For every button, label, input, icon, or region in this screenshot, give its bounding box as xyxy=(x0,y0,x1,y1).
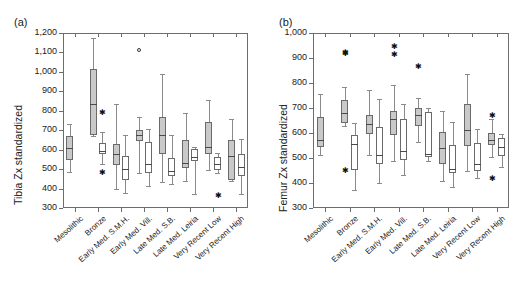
x-tick-mark xyxy=(75,208,76,212)
x-tick-mark-top xyxy=(423,33,424,37)
whisker-cap-box-b-filled-4-low xyxy=(416,142,421,143)
whisker-cap-box-a-filled-5-low xyxy=(183,181,188,182)
whisker-cap-box-a-filled-3-high xyxy=(137,117,142,118)
outlier-star-box-b-filled-7-1: ✱ xyxy=(489,176,496,182)
whisker-cap-box-a-filled-7-low xyxy=(229,181,234,182)
y-tick-label: 900 xyxy=(19,85,57,95)
median-box-b-filled-4 xyxy=(415,115,422,116)
x-tick-mark xyxy=(399,208,400,212)
y-tick-label: 800 xyxy=(19,105,57,115)
whisker-cap-box-b-filled-1-high xyxy=(342,87,347,88)
whisker-cap-box-a-open-3-low xyxy=(146,186,151,187)
whisker-cap-box-b-filled-5-low xyxy=(440,181,445,182)
y-tick-label: 300 xyxy=(19,202,57,212)
outlier-star-box-a-open-6-0: ✱ xyxy=(215,193,222,199)
y-tick-mark xyxy=(309,208,313,209)
whisker-cap-box-a-open-5-low xyxy=(192,194,197,195)
y-tick-label: 500 xyxy=(269,152,307,162)
x-tick-mark-top xyxy=(399,33,400,37)
whisker-cap-box-b-open-3-low xyxy=(401,175,406,176)
y-tick-label: 400 xyxy=(269,177,307,187)
whisker-cap-box-b-filled-1-low xyxy=(342,126,347,127)
whisker-cap-box-b-open-3-high xyxy=(401,104,406,105)
whisker-cap-box-a-open-7-high xyxy=(239,139,244,140)
whisker-cap-box-a-filled-6-high xyxy=(206,100,211,101)
median-box-b-open-1 xyxy=(351,144,358,145)
y-tick-label: 600 xyxy=(269,127,307,137)
whisker-cap-box-b-filled-2-high xyxy=(367,90,372,91)
whisker-cap-box-a-filled-0-low xyxy=(67,172,72,173)
whisker-cap-box-b-filled-3-low xyxy=(391,161,396,162)
box-a-filled-7 xyxy=(228,140,235,180)
box-b-filled-4 xyxy=(415,108,422,126)
whisker-cap-box-a-open-2-low xyxy=(123,193,128,194)
whisker-cap-box-b-filled-3-high xyxy=(391,85,396,86)
whisker-cap-box-a-filled-2-low xyxy=(114,189,119,190)
y-tick-label: 800 xyxy=(269,77,307,87)
x-tick-mark-top xyxy=(325,33,326,37)
whisker-cap-box-b-filled-4-high xyxy=(416,98,421,99)
whisker-cap-box-a-filled-0-high xyxy=(67,124,72,125)
whisker-cap-box-a-filled-4-high xyxy=(160,74,165,75)
y-tick-label: 300 xyxy=(269,202,307,212)
x-tick-mark-top xyxy=(374,33,375,37)
median-box-b-open-3 xyxy=(400,151,407,152)
whisker-cap-box-b-filled-0-high xyxy=(318,94,323,95)
median-box-a-open-4 xyxy=(168,171,175,172)
y-tick-mark xyxy=(59,72,63,73)
box-b-filled-0 xyxy=(317,117,324,147)
median-box-b-filled-5 xyxy=(439,148,446,149)
whisker-cap-box-b-open-6-high xyxy=(475,129,480,130)
x-tick-mark-top xyxy=(98,33,99,37)
x-tick-mark xyxy=(448,208,449,212)
box-a-open-1 xyxy=(99,143,106,154)
median-box-a-filled-5 xyxy=(182,163,189,164)
box-b-filled-1 xyxy=(341,100,348,123)
outlier-star-box-b-filled-1-2: ✱ xyxy=(342,168,349,174)
whisker-cap-box-b-open-1-low xyxy=(352,190,357,191)
whisker-cap-box-a-filled-5-high xyxy=(183,113,188,114)
median-box-b-open-4 xyxy=(425,154,432,155)
whisker-cap-box-b-open-7-low xyxy=(499,167,504,168)
y-tick-label: 500 xyxy=(19,163,57,173)
whisker-cap-box-b-filled-7-low xyxy=(489,157,494,158)
y-tick-label: 1,000 xyxy=(19,66,57,76)
whisker-cap-box-b-filled-6-high xyxy=(465,74,470,75)
y-tick-mark xyxy=(59,150,63,151)
box-b-open-2 xyxy=(376,127,383,164)
y-tick-label: 1,000 xyxy=(269,27,307,37)
whisker-cap-box-a-open-1-high xyxy=(100,132,105,133)
x-tick-mark-top xyxy=(144,33,145,37)
x-tick-mark-top xyxy=(236,33,237,37)
y-tick-mark xyxy=(309,108,313,109)
median-box-b-filled-7 xyxy=(488,140,495,141)
x-tick-mark xyxy=(190,208,191,212)
median-box-a-filled-7 xyxy=(228,156,235,157)
x-tick-mark xyxy=(213,208,214,212)
median-box-b-open-7 xyxy=(498,147,505,148)
whisker-cap-box-a-filled-1-low xyxy=(91,136,96,137)
median-box-a-filled-4 xyxy=(159,135,166,136)
whisker-cap-box-b-filled-0-low xyxy=(318,155,323,156)
y-tick-mark xyxy=(309,183,313,184)
whisker-cap-box-a-filled-2-high xyxy=(114,104,119,105)
box-a-open-5 xyxy=(191,149,198,160)
whisker-cap-box-a-open-5-high xyxy=(192,147,197,148)
x-tick-mark-top xyxy=(448,33,449,37)
median-box-b-filled-3 xyxy=(390,119,397,120)
whisker-cap-box-a-open-4-high xyxy=(169,135,174,136)
median-box-a-filled-0 xyxy=(66,148,73,149)
y-tick-label: 700 xyxy=(269,102,307,112)
box-a-open-4 xyxy=(168,158,175,176)
panel-a: (a) Tibia Zx standardized 30040050060070… xyxy=(0,0,264,306)
whisker-cap-box-a-open-7-low xyxy=(239,194,244,195)
x-tick-mark-top xyxy=(350,33,351,37)
median-box-a-open-7 xyxy=(238,167,245,168)
median-box-b-filled-6 xyxy=(464,130,471,131)
x-tick-mark xyxy=(350,208,351,212)
whisker-cap-box-b-filled-6-low xyxy=(465,171,470,172)
median-box-a-open-6 xyxy=(214,164,221,165)
median-box-b-filled-2 xyxy=(366,124,373,125)
whisker-cap-box-a-open-6-high xyxy=(215,153,220,154)
x-tick-mark xyxy=(472,208,473,212)
